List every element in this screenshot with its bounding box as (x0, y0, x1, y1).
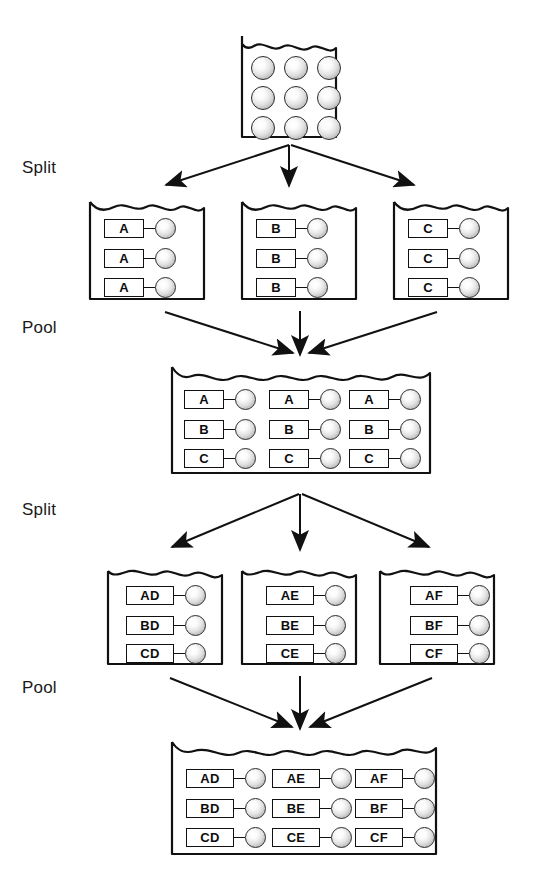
vessel-contents: C C C (392, 196, 510, 301)
vessel-contents: A A A (88, 196, 206, 301)
vessel-split1-c: C C C (392, 196, 510, 301)
bead (320, 389, 341, 410)
tag-label: A (349, 390, 389, 409)
linker (234, 808, 245, 809)
tag-label: AE (272, 769, 320, 788)
bead (400, 389, 421, 410)
tag-label: C (269, 449, 309, 468)
linker (296, 258, 307, 259)
tag-label: C (408, 278, 448, 297)
tagged-bead-row: A (104, 248, 176, 269)
tag-label: CF (410, 644, 458, 663)
bead (185, 615, 206, 636)
tag-label: CE (266, 644, 314, 663)
vessel-split1-a: A A A (88, 196, 206, 301)
bead-row (251, 56, 341, 80)
bead (317, 86, 341, 110)
linker (403, 808, 414, 809)
bead (251, 56, 275, 80)
bead (245, 768, 266, 789)
pool-1-arrows (165, 311, 437, 355)
bead (469, 615, 490, 636)
tag-label: B (184, 420, 224, 439)
tag-label: A (104, 249, 144, 268)
pool-2-arrows (170, 676, 432, 729)
tagged-bead-row: CD (126, 643, 206, 664)
bead (235, 389, 256, 410)
linker (224, 458, 235, 459)
tagged-bead-row: B (256, 248, 328, 269)
linker (234, 837, 245, 838)
linker (144, 287, 155, 288)
tagged-bead-row: BE (266, 615, 346, 636)
bead (459, 277, 480, 298)
bead (185, 643, 206, 664)
linker (296, 287, 307, 288)
tagged-bead-row: A (269, 389, 341, 410)
tagged-bead-row: CD (186, 827, 266, 848)
tagged-bead-row: CE (266, 643, 346, 664)
bead (155, 248, 176, 269)
vessel-contents: AF BF CF (378, 561, 496, 666)
tag-label: A (269, 390, 309, 409)
bead (414, 827, 435, 848)
bead (325, 615, 346, 636)
vessel-starting (240, 34, 338, 139)
linker (314, 595, 325, 596)
bead (307, 277, 328, 298)
linker (314, 625, 325, 626)
bead (245, 827, 266, 848)
tag-label: AF (355, 769, 403, 788)
stage-label-pool-2: Pool (22, 678, 57, 698)
vessel-contents: AE BE CE (240, 561, 358, 666)
linker (144, 228, 155, 229)
tag-label: C (408, 249, 448, 268)
tagged-bead-row: AE (266, 585, 346, 606)
tagged-bead-row: B (349, 419, 421, 440)
bead (245, 798, 266, 819)
linker (320, 778, 331, 779)
bead-row (251, 86, 341, 110)
tagged-bead-row: BF (355, 798, 435, 819)
stage-label-split-2: Split (22, 500, 56, 520)
bead (459, 218, 480, 239)
tagged-bead-row: B (256, 277, 328, 298)
bead (325, 585, 346, 606)
bead (320, 419, 341, 440)
vessel-contents: A A A B B (170, 363, 432, 475)
tagged-bead-row: CF (355, 827, 435, 848)
linker (314, 653, 325, 654)
linker (403, 837, 414, 838)
linker (174, 653, 185, 654)
tagged-bead-row: A (184, 389, 256, 410)
bead (284, 56, 308, 80)
tag-label: C (349, 449, 389, 468)
bead (251, 116, 275, 140)
tagged-bead-row: BD (126, 615, 206, 636)
tag-label: BE (272, 799, 320, 818)
tagged-bead-row: C (408, 218, 480, 239)
tagged-bead-row: BD (186, 798, 266, 819)
bead (331, 768, 352, 789)
vessel-split2-f: AF BF CF (378, 561, 496, 666)
bead (235, 419, 256, 440)
linker (234, 778, 245, 779)
tag-label: A (104, 219, 144, 238)
bead (307, 248, 328, 269)
tag-label: BD (126, 616, 174, 635)
vessel-contents (240, 34, 338, 139)
tagged-bead-row: AF (410, 585, 490, 606)
bead (414, 798, 435, 819)
tag-label: A (184, 390, 224, 409)
linker (458, 653, 469, 654)
linker (224, 399, 235, 400)
tagged-bead-row: C (408, 277, 480, 298)
bead (317, 56, 341, 80)
tagged-bead-row: C (184, 448, 256, 469)
linker (224, 429, 235, 430)
vessel-split2-d: AD BD CD (106, 561, 224, 666)
vessel-pool1: A A A B B (170, 363, 432, 475)
bead (307, 218, 328, 239)
vessel-split2-e: AE BE CE (240, 561, 358, 666)
tag-label: B (269, 420, 309, 439)
